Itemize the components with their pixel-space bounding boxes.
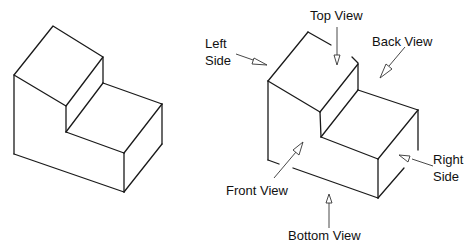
- right-step-riser-left: [320, 112, 321, 137]
- right-isometric-block: [268, 32, 418, 198]
- back-view-label: Back View: [372, 34, 433, 49]
- front-view-label: Front View: [226, 183, 289, 198]
- bottom-view-arrow: [326, 194, 332, 228]
- right-tall-top-front: [268, 81, 320, 112]
- right-tall-top-left: [268, 32, 308, 81]
- right-front-bottom-a: [268, 160, 279, 164]
- top-view-arrow: [334, 27, 340, 65]
- left-lower-top-back: [103, 83, 162, 104]
- back-view-arrow: [380, 47, 405, 78]
- left-lower-top-front: [66, 132, 124, 153]
- right-step-riser-bottom: [321, 90, 358, 137]
- right-tall-top-back-b: [352, 57, 358, 63]
- right-lower-top-right: [378, 110, 418, 159]
- top-view-label: Top View: [310, 8, 363, 23]
- left-side-arrow: [236, 54, 267, 65]
- left-side-label-line2: Side: [205, 53, 231, 68]
- right-lower-top-back: [358, 90, 418, 110]
- left-tall-top-face: [14, 26, 103, 106]
- diagram-canvas: Top View Left Side Back View Front View …: [0, 0, 476, 249]
- right-right-bottom: [378, 168, 404, 198]
- view-labels: Top View Left Side Back View Front View …: [205, 8, 464, 243]
- left-right-bottom: [124, 144, 162, 192]
- left-front-bottom: [14, 154, 124, 192]
- front-view-arrow: [274, 142, 303, 178]
- right-side-label-line1: Right: [433, 152, 464, 167]
- left-isometric-block: [14, 26, 162, 192]
- bottom-view-label: Bottom View: [288, 228, 361, 243]
- right-tall-top-back-a: [308, 32, 331, 45]
- left-side-label-line1: Left: [205, 36, 227, 51]
- right-side-label-line2: Side: [433, 169, 459, 184]
- left-lower-top-right: [124, 104, 162, 153]
- left-step-riser-bottom: [66, 83, 103, 132]
- right-side-arrow: [399, 155, 433, 166]
- right-lower-top-front: [321, 137, 378, 159]
- right-tall-top-right: [320, 64, 358, 112]
- right-front-bottom-b: [293, 168, 378, 198]
